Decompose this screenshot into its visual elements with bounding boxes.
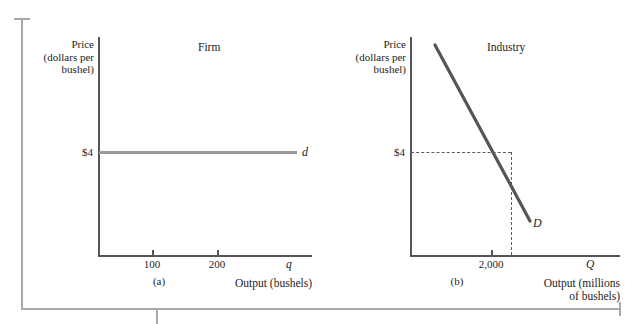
industry-price-label: $4 (372, 146, 405, 158)
industry-y-axis-title-line-2: (dollars per (336, 51, 406, 64)
industry-price-guide-horizontal (411, 152, 511, 153)
industry-x-axis-caption-line-1: Output (millions (485, 277, 620, 290)
industry-quantity-guide-vertical (511, 152, 512, 255)
panel-industry: Price (dollars per bushel) Industry $4 D… (0, 0, 635, 324)
industry-x-tick-label-2000: 2,000 (466, 258, 516, 270)
industry-demand-curve-label: D (533, 216, 542, 231)
industry-y-axis-title-line-1: Price (336, 38, 406, 51)
industry-x-tick-2000 (491, 250, 493, 255)
industry-x-variable-label: Q (586, 258, 594, 270)
industry-demand-curve (435, 45, 530, 221)
industry-panel-title: Industry (487, 41, 525, 53)
industry-y-axis-title: Price (dollars per bushel) (336, 38, 406, 76)
industry-x-axis-caption: Output (millions of bushels) (485, 277, 620, 303)
industry-y-axis (410, 37, 412, 256)
industry-y-axis-title-line-3: bushel) (336, 63, 406, 76)
industry-panel-caption: (b) (437, 275, 477, 287)
industry-x-axis (410, 255, 620, 257)
industry-x-axis-caption-line-2: of bushels) (485, 290, 620, 303)
industry-demand-curve-svg (0, 0, 635, 324)
economics-figure: Price (dollars per bushel) Firm $4 d 100… (0, 0, 635, 324)
